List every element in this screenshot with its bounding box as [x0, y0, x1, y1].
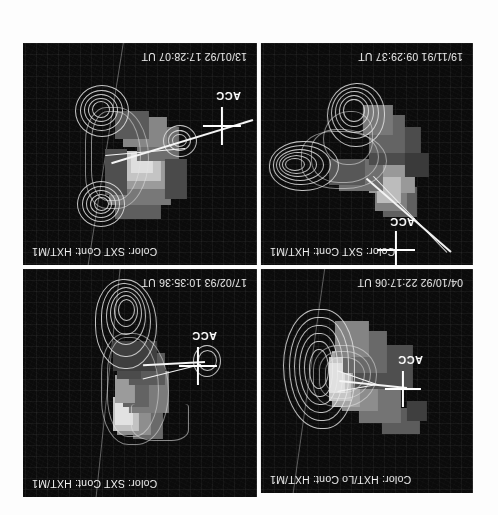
panel-top-left: ACC Color: HXT/Lo Cont: HXT/M1 04/10/92 … — [261, 269, 473, 493]
acc-label: ACC — [398, 354, 423, 365]
rotated-figure-content: ACC Color: HXT/Lo Cont: HXT/M1 04/10/92 … — [0, 0, 498, 515]
field-line-arc — [323, 111, 373, 165]
acc-label: ACC — [216, 90, 241, 101]
contour-level — [118, 299, 135, 321]
panel-header-label: Color: SXT Cont: HXT/M1 — [32, 479, 157, 490]
panel-header-label: Color: SXT Cont: HXT/M1 — [270, 247, 395, 258]
field-line-arc — [107, 337, 159, 437]
acc-marker — [385, 371, 421, 407]
crosshair-vertical — [221, 107, 223, 145]
panel-bottom-right: ACC Color: SXT Cont: HXT/M1 13/01/92 17:… — [23, 43, 257, 265]
crosshair-vertical — [395, 231, 397, 265]
acc-label: ACC — [192, 330, 217, 341]
acc-marker — [179, 347, 217, 385]
panel-timestamp-label: 17/02/93 10:35:36 UT — [141, 278, 247, 289]
crosshair-vertical — [402, 371, 404, 407]
acc-label: ACC — [390, 216, 415, 227]
emission-pixel — [165, 159, 187, 199]
solar-flare-montage-figure: ACC Color: HXT/Lo Cont: HXT/M1 04/10/92 … — [0, 0, 498, 515]
panel-top-right: ACC Color: SXT Cont: HXT/M1 17/02/93 10:… — [23, 269, 257, 497]
panel-timestamp-label: 04/10/92 22:17:06 UT — [357, 278, 463, 289]
emission-pixel — [405, 153, 429, 177]
panel-bottom-left: ACC Color: SXT Cont: HXT/M1 19/11/91 09:… — [261, 43, 473, 265]
panel-header-label: Color: HXT/Lo Cont: HXT/M1 — [270, 475, 411, 486]
panel-header-label: Color: SXT Cont: HXT/M1 — [32, 247, 157, 258]
acc-marker — [203, 107, 241, 145]
panel-timestamp-label: 19/11/91 09:29:37 UT — [358, 52, 463, 63]
crosshair-vertical — [197, 347, 199, 385]
panel-timestamp-label: 13/01/92 17:28:07 UT — [141, 52, 247, 63]
